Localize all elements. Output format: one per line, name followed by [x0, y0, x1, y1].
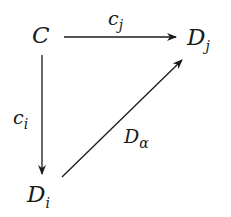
arrow-di-to-dj: [62, 60, 182, 177]
node-c: C: [32, 24, 50, 47]
node-c-base: C: [32, 22, 50, 48]
node-di-sub: i: [45, 195, 49, 211]
label-ci: ci: [13, 108, 28, 127]
label-cj-sub: j: [119, 17, 123, 33]
label-cj-base: c: [108, 7, 119, 29]
label-ci-base: c: [13, 106, 24, 128]
node-dj-base: D: [187, 24, 205, 50]
node-di-base: D: [27, 181, 45, 207]
label-dalpha: Dα: [124, 127, 149, 146]
label-dalpha-sub: α: [139, 135, 148, 151]
label-ci-sub: i: [24, 116, 28, 132]
node-dj-sub: j: [205, 38, 209, 54]
node-dj: Dj: [187, 26, 210, 49]
label-cj: cj: [108, 9, 123, 28]
node-di: Di: [27, 183, 50, 206]
label-dalpha-base: D: [124, 125, 139, 147]
